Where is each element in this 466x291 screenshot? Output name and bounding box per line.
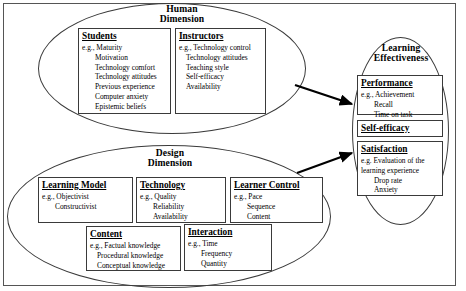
card-performance-title: Performance [361, 78, 439, 89]
card-performance-body: e.g., Achievement Recall Time on task [361, 90, 439, 120]
card-instructors-body: e.g., Technology control Technology atti… [179, 43, 262, 92]
card-performance: Performance e.g., Achievement Recall Tim… [357, 75, 443, 115]
card-learning-model-title: Learning Model [42, 180, 129, 191]
card-technology-eg: e.g., Quality [140, 192, 222, 202]
card-content-eg: e.g., Factual knowledge [90, 241, 177, 251]
card-satisfaction-item: Anxiety [361, 185, 439, 195]
card-instructors-eg: e.g., Technology control [179, 43, 262, 53]
card-instructors-item: Availability [179, 82, 262, 92]
card-satisfaction-body: e.g. Evaluation of the learning experien… [361, 156, 439, 195]
card-learner-control-eg: e.g., Pace [234, 192, 319, 202]
learning-effectiveness-title-line2: Effectiveness [356, 53, 446, 63]
card-learner-control: Learner Control e.g., Pace Sequence Cont… [230, 177, 323, 223]
design-dimension-title: Design Dimension [110, 148, 230, 169]
card-learning-model-body: e.g., Objectivist Constructivist [42, 192, 129, 212]
card-learning-model-eg: e.g., Objectivist [42, 192, 129, 202]
card-performance-item: Time on task [361, 110, 439, 120]
card-interaction: Interaction e.g., Time Frequency Quantit… [184, 224, 272, 271]
card-self-efficacy: Self-efficacy [357, 120, 443, 137]
card-learner-control-item: Sequence [234, 202, 319, 212]
card-learning-model-item: Constructivist [42, 202, 129, 212]
card-instructors-title: Instructors [179, 31, 262, 42]
card-students-item: Technology comfort [82, 63, 167, 73]
human-dimension-title: Human Dimension [122, 4, 242, 25]
card-students-item: Computer anxiety [82, 92, 167, 102]
card-interaction-title: Interaction [188, 227, 268, 238]
card-interaction-item: Frequency [188, 249, 268, 259]
card-content-item: Procedural knowledge [90, 251, 177, 261]
card-students-eg: e.g., Maturity [82, 43, 167, 53]
card-interaction-eg: e.g., Time [188, 239, 268, 249]
card-interaction-item: Quantity [188, 259, 268, 269]
card-satisfaction-item: learning experience [361, 166, 439, 176]
card-students-item: Technology attitudes [82, 72, 167, 82]
card-learning-model: Learning Model e.g., Objectivist Constru… [38, 177, 133, 223]
card-satisfaction: Satisfaction e.g. Evaluation of the lear… [357, 141, 443, 196]
card-students-title: Students [82, 31, 167, 42]
design-dimension-title-line2: Dimension [110, 158, 230, 168]
learning-effectiveness-title: Learning Effectiveness [356, 43, 446, 64]
card-content-body: e.g., Factual knowledge Procedural knowl… [90, 241, 177, 271]
card-satisfaction-title: Satisfaction [361, 144, 439, 155]
card-content: Content e.g., Factual knowledge Procedur… [86, 226, 181, 271]
card-students-item: Previous experience [82, 82, 167, 92]
card-satisfaction-eg: e.g. Evaluation of the [361, 156, 439, 166]
card-learner-control-item: Content [234, 212, 319, 222]
card-self-efficacy-title: Self-efficacy [361, 123, 439, 134]
card-learner-control-body: e.g., Pace Sequence Content [234, 192, 319, 222]
card-technology: Technology e.g., Quality Reliability Ava… [136, 177, 226, 223]
card-technology-item: Reliability [140, 202, 222, 212]
card-instructors-item: Technology attitudes [179, 53, 262, 63]
card-students: Students e.g., Maturity Motivation Techn… [78, 28, 171, 114]
card-students-item: Epistemic beliefs [82, 102, 167, 112]
card-technology-title: Technology [140, 180, 222, 191]
card-instructors-item: Teaching style [179, 63, 262, 73]
card-content-item: Conceptual knowledge [90, 261, 177, 271]
card-satisfaction-item: Drop rate [361, 176, 439, 186]
card-learner-control-title: Learner Control [234, 180, 319, 191]
card-technology-item: Availability [140, 212, 222, 222]
card-content-title: Content [90, 229, 177, 240]
card-performance-item: Recall [361, 100, 439, 110]
card-interaction-body: e.g., Time Frequency Quantity [188, 239, 268, 269]
card-students-item: Motivation [82, 53, 167, 63]
diagram-canvas: Human Dimension Students e.g., Maturity … [0, 0, 466, 291]
card-instructors: Instructors e.g., Technology control Tec… [175, 28, 266, 114]
card-students-body: e.g., Maturity Motivation Technology com… [82, 43, 167, 112]
card-performance-eg: e.g., Achievement [361, 90, 439, 100]
human-dimension-title-line2: Dimension [122, 14, 242, 24]
card-instructors-item: Self-efficacy [179, 72, 262, 82]
card-technology-body: e.g., Quality Reliability Availability [140, 192, 222, 222]
